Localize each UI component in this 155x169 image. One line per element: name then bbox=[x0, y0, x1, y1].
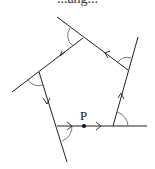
point-p-dot bbox=[82, 124, 86, 128]
upper-right-side-extended bbox=[57, 17, 128, 70]
exterior-angle-arc-left bbox=[28, 80, 43, 86]
exterior-angle-arc-bottom-left bbox=[62, 126, 72, 141]
upper-left-side-extended bbox=[12, 38, 83, 92]
exterior-angle-arc-right bbox=[118, 57, 131, 62]
exterior-angles-pentagon-diagram: P bbox=[0, 0, 155, 169]
exterior-angle-arc-top bbox=[68, 28, 73, 46]
point-p-label: P bbox=[80, 108, 87, 123]
left-side-extended bbox=[39, 72, 67, 162]
exterior-angle-arc-bottom-right bbox=[117, 112, 128, 126]
right-side-extended bbox=[113, 37, 138, 126]
